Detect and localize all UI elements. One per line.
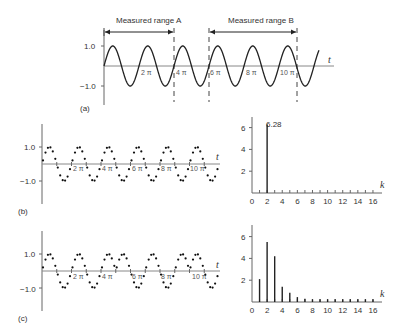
sample-dot <box>130 274 132 276</box>
sample-dot <box>81 150 83 152</box>
panel-a-sine-wave: Measured range A Measured range B 1.0 −1… <box>80 16 334 113</box>
sample-dot <box>165 286 167 288</box>
sample-dot <box>204 167 206 169</box>
svg-text:10 π: 10 π <box>190 165 205 172</box>
sample-dot <box>216 275 218 277</box>
sample-dot <box>52 150 54 152</box>
sample-dot <box>126 257 128 259</box>
sample-dot <box>160 159 162 161</box>
svg-text:2 π: 2 π <box>141 69 152 76</box>
y-tick-1: 1.0 <box>24 143 36 152</box>
sample-dot <box>177 259 179 261</box>
sample-dot <box>194 254 196 256</box>
range-b-label: Measured range B <box>228 16 294 25</box>
sample-dot <box>116 266 118 268</box>
x-axis-label: k <box>380 179 385 190</box>
sample-dot <box>212 180 214 182</box>
x-axis-label: t <box>216 259 219 270</box>
sample-dot <box>42 266 44 268</box>
sample-dot <box>197 253 199 255</box>
x-tick-label: 12 <box>338 197 347 206</box>
panel-label-a: (a) <box>80 104 90 113</box>
sample-dot <box>180 179 182 181</box>
panel-label-c: (c) <box>18 314 28 323</box>
sample-dot <box>57 167 59 169</box>
sample-dot <box>209 286 211 288</box>
sample-dot <box>170 150 172 152</box>
sample-dot <box>143 275 145 277</box>
sample-dot <box>111 150 113 152</box>
sample-dot <box>67 176 69 178</box>
panel-label-b: (b) <box>18 207 28 216</box>
sample-dot <box>103 259 105 261</box>
sample-dot <box>91 286 93 288</box>
svg-text:6 π: 6 π <box>132 273 143 280</box>
x-tick-label: 0 <box>250 197 255 206</box>
x-axis-label: t <box>216 151 219 162</box>
sample-dot <box>157 265 159 267</box>
sample-dot <box>101 159 103 161</box>
sample-dot <box>197 146 199 148</box>
sample-dot <box>118 259 120 261</box>
sample-dot <box>182 253 184 255</box>
x-tick-label: 2 <box>265 306 270 315</box>
sample-dot <box>138 146 140 148</box>
svg-text:2 π: 2 π <box>73 273 84 280</box>
x-tick-labels: 2 π 4 π 6 π 8 π 10 π <box>73 273 207 280</box>
x-tick-label: 8 <box>310 197 315 206</box>
sample-dot <box>113 158 115 160</box>
sample-dot <box>175 167 177 169</box>
sample-dot <box>123 253 125 255</box>
x-tick-label: 10 <box>323 197 332 206</box>
x-tick-label: 4 <box>280 306 285 315</box>
x-tick-label: 6 <box>295 306 300 315</box>
x-tick-labels: 2 π 4 π 6 π 8 π 10 π <box>73 165 205 172</box>
sample-dot <box>74 152 76 154</box>
sample-dot <box>165 147 167 149</box>
sample-dot <box>47 254 49 256</box>
x-tick-label: 14 <box>353 197 362 206</box>
sample-dot <box>71 266 73 268</box>
arrow-head-left <box>210 30 215 35</box>
sample-dot <box>44 152 46 154</box>
sample-dot <box>89 174 91 176</box>
sample-dot <box>121 254 123 256</box>
panel-c-spectrum: 2460246810121416k <box>241 225 385 315</box>
x-axis-label: k <box>380 288 385 299</box>
y-tick-1: 1.0 <box>84 42 96 51</box>
sample-dot <box>204 274 206 276</box>
sample-dot <box>150 179 152 181</box>
sample-dot <box>162 152 164 154</box>
sample-dot <box>42 159 44 161</box>
sample-dot <box>148 259 150 261</box>
sample-dot <box>86 167 88 169</box>
sample-dot <box>69 275 71 277</box>
y-tick-neg1: −1.0 <box>80 82 96 91</box>
sample-dot <box>81 257 83 259</box>
sample-dot <box>126 176 128 178</box>
svg-text:4 π: 4 π <box>176 69 187 76</box>
sample-dot <box>79 146 81 148</box>
svg-text:4 π: 4 π <box>102 165 113 172</box>
sample-dot <box>59 281 61 283</box>
svg-text:6 π: 6 π <box>210 69 221 76</box>
sample-dot <box>182 180 184 182</box>
sample-dot <box>54 158 56 160</box>
sample-dot <box>177 174 179 176</box>
sample-dot <box>153 180 155 182</box>
sample-dot <box>194 147 196 149</box>
sample-dot <box>67 283 69 285</box>
sample-dot <box>64 287 66 289</box>
sample-dot <box>199 257 201 259</box>
y-tick-label: 4 <box>241 254 246 263</box>
arrow-head-left <box>105 30 110 35</box>
sample-dot <box>76 254 78 256</box>
sample-dot <box>207 174 209 176</box>
sample-dot <box>202 158 204 160</box>
y-tick-neg1: −1.0 <box>20 285 36 294</box>
sample-dot <box>94 180 96 182</box>
sample-dot <box>62 286 64 288</box>
sample-dot <box>143 158 145 160</box>
sample-dot <box>140 150 142 152</box>
sample-dot <box>135 286 137 288</box>
